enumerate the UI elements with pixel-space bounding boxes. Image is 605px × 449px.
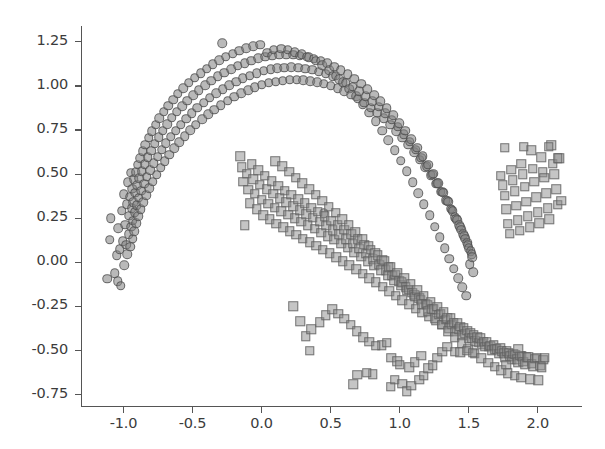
x-axis-tick-label: 0.0 <box>250 415 272 431</box>
data-point <box>235 152 245 162</box>
y-axis-tick-mark <box>75 350 81 351</box>
x-axis-tick-mark <box>261 407 262 413</box>
x-axis-tick-label: -0.5 <box>179 415 207 431</box>
y-axis-tick-mark <box>75 174 81 175</box>
y-axis-tick-mark <box>75 85 81 86</box>
data-point <box>551 185 561 195</box>
data-point <box>501 360 511 370</box>
data-point <box>295 317 305 327</box>
data-point <box>500 191 510 201</box>
y-axis-tick-label: -0.25 <box>31 296 68 312</box>
data-point <box>498 181 508 191</box>
data-point <box>503 219 513 229</box>
y-axis-tick-label: 1.25 <box>37 32 69 48</box>
data-point <box>507 165 517 175</box>
data-point <box>305 346 315 356</box>
data-point <box>530 177 540 187</box>
data-point <box>240 221 250 231</box>
data-point <box>349 379 359 389</box>
y-axis-tick-label: -0.75 <box>31 385 68 401</box>
x-axis-tick-mark <box>330 407 331 413</box>
x-axis-tick-mark <box>399 407 400 413</box>
data-point <box>541 188 551 198</box>
data-point <box>516 159 526 169</box>
data-point <box>520 182 530 192</box>
data-point <box>513 215 523 225</box>
data-point <box>496 171 506 181</box>
data-point <box>523 211 533 221</box>
x-axis-tick-mark <box>192 407 193 413</box>
data-point <box>556 196 566 206</box>
y-axis-tick-mark <box>75 41 81 42</box>
x-axis-tick-label: 1.0 <box>388 415 410 431</box>
y-axis-tick-mark <box>75 218 81 219</box>
y-axis-tick-label: 0.00 <box>37 252 69 268</box>
data-point <box>540 353 550 363</box>
data-point <box>540 173 550 183</box>
data-point <box>519 142 529 152</box>
scatter-chart-figure: 1.251.000.750.500.250.00-0.25-0.50-0.75 … <box>0 0 605 449</box>
data-point <box>550 169 560 179</box>
x-axis-tick-label: 1.5 <box>458 415 480 431</box>
data-point <box>533 207 543 217</box>
y-axis-tick-label: 1.00 <box>37 76 69 92</box>
x-axis-tick-label: 2.0 <box>527 415 549 431</box>
y-axis-spine <box>81 26 82 407</box>
data-point <box>382 338 392 348</box>
x-axis-tick-mark <box>468 407 469 413</box>
data-point <box>395 360 405 370</box>
data-point <box>521 197 531 207</box>
series-class-1 <box>82 26 582 407</box>
data-point <box>514 344 524 354</box>
data-point <box>500 143 510 153</box>
y-axis-tick-mark <box>75 262 81 263</box>
data-point <box>510 186 520 196</box>
y-axis-tick-label: 0.25 <box>37 208 69 224</box>
y-axis-tick-label: -0.50 <box>31 341 68 357</box>
y-axis-tick-label: 0.50 <box>37 164 69 180</box>
x-axis-tick-mark <box>123 407 124 413</box>
data-point <box>508 176 518 186</box>
x-axis-spine <box>81 406 582 407</box>
data-point <box>505 229 515 239</box>
data-point <box>531 193 541 203</box>
data-point <box>528 164 538 174</box>
data-point <box>512 201 522 211</box>
data-point <box>543 204 553 214</box>
data-point <box>362 368 372 378</box>
data-point <box>553 154 563 164</box>
x-axis-tick-label: 0.5 <box>319 415 341 431</box>
data-point <box>468 348 478 358</box>
data-point <box>535 218 545 228</box>
x-axis-tick-label: -1.0 <box>110 415 138 431</box>
data-point <box>502 205 512 215</box>
data-point <box>515 226 525 236</box>
y-axis-tick-label: 0.75 <box>37 120 69 136</box>
data-point <box>544 142 554 152</box>
data-point <box>289 302 299 312</box>
y-axis-tick-mark <box>75 394 81 395</box>
data-point <box>545 214 555 224</box>
y-axis-tick-mark <box>75 306 81 307</box>
x-axis-tick-mark <box>537 407 538 413</box>
data-point <box>371 341 381 351</box>
data-point <box>536 152 546 162</box>
data-point <box>416 351 426 361</box>
plot-area <box>82 26 582 407</box>
data-point <box>518 169 528 179</box>
y-axis-tick-mark <box>75 129 81 130</box>
data-point <box>525 222 535 232</box>
data-point <box>534 376 544 386</box>
data-point <box>353 370 363 380</box>
